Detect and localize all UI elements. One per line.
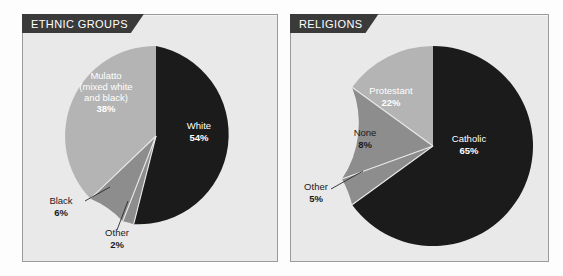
label-black: Black 6% [35,195,87,218]
label-catholic: Catholic 65% [431,133,507,156]
pie-svg-religions [291,15,548,261]
panel-ethnic-groups: ETHNIC GROUPS [22,14,278,262]
panel-title-label: RELIGIONS [299,18,363,30]
label-other: Other 5% [293,181,339,204]
label-white: White 54% [168,120,230,143]
label-protestant: Protestant 22% [353,85,429,108]
pie-chart-ethnic-groups: White 54% Mulatto (mixed white and black… [23,15,277,261]
page-background: ETHNIC GROUPS [0,0,563,276]
panel-title-label: ETHNIC GROUPS [31,18,128,30]
panel-title-ethnic-groups: ETHNIC GROUPS [22,14,144,33]
panel-religions: RELIGIONS Catholic [290,14,549,262]
panel-title-religions: RELIGIONS [290,14,379,33]
pie-chart-religions: Catholic 65% Protestant 22% None 8% Othe… [291,15,548,261]
label-other: Other 2% [91,227,143,250]
label-none: None 8% [339,127,391,150]
pie-svg-ethnic [23,15,277,261]
label-mulatto: Mulatto (mixed white and black) 38% [61,70,151,114]
